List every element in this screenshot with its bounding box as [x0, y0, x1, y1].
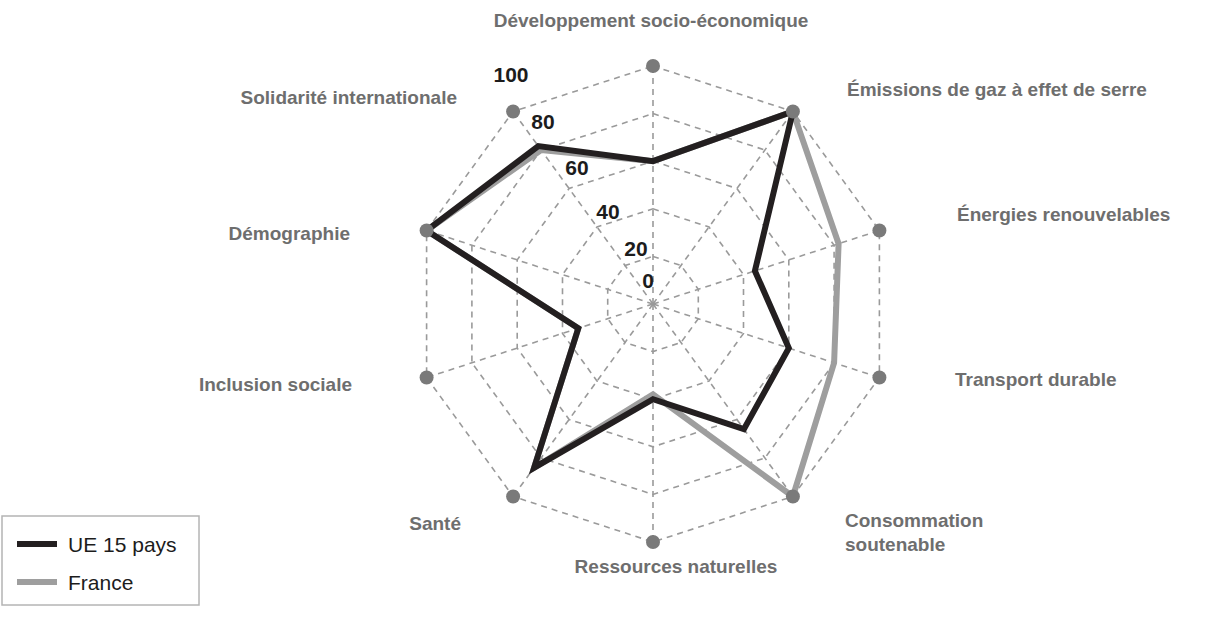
axis-label-sante: Santé	[409, 513, 461, 534]
axis-vertex-dot-8	[420, 224, 434, 238]
axis-vertex-dot-7	[420, 371, 434, 385]
tick-label-80: 80	[531, 110, 554, 133]
axis-vertex-dot-9	[506, 105, 520, 119]
axis-vertex-dot-4	[786, 490, 800, 504]
axis-label-demographie: Démographie	[229, 223, 350, 244]
axis-vertex-dot-3	[872, 371, 886, 385]
legend: UE 15 pays France	[2, 516, 199, 605]
axis-label-consommation-soutenable-line1: Consommation	[845, 510, 983, 531]
axis-label-consommation-soutenable-line2: soutenable	[845, 534, 945, 555]
axis-label-emissions-gaz-effet-de-serre: Émissions de gaz à effet de serre	[847, 79, 1147, 100]
axis-vertex-dot-6	[506, 490, 520, 504]
tick-label-60: 60	[565, 156, 588, 179]
tick-label-100: 100	[493, 63, 528, 86]
axis-vertex-dot-2	[872, 224, 886, 238]
legend-label-france: France	[68, 571, 133, 594]
tick-label-0: 0	[642, 269, 654, 292]
axis-label-developpement-socio-economique: Développement socio-économique	[494, 10, 809, 31]
radar-chart-figure: Développement socio-économique Émissions…	[0, 0, 1211, 623]
radar-chart-svg: Développement socio-économique Émissions…	[0, 0, 1211, 623]
axis-vertex-dot-1	[786, 105, 800, 119]
axis-label-solidarite-internationale: Solidarité internationale	[241, 87, 457, 108]
tick-label-40: 40	[596, 200, 619, 223]
tick-label-20: 20	[624, 237, 647, 260]
axis-label-ressources-naturelles: Ressources naturelles	[575, 556, 778, 577]
axis-label-transport-durable: Transport durable	[955, 369, 1117, 390]
axis-vertex-dot-0	[646, 59, 660, 73]
axis-label-energies-renouvelables: Énergies renouvelables	[957, 204, 1170, 225]
axis-label-inclusion-sociale: Inclusion sociale	[199, 374, 352, 395]
axis-vertex-dot-5	[646, 535, 660, 549]
legend-label-ue-15-pays: UE 15 pays	[68, 533, 177, 556]
